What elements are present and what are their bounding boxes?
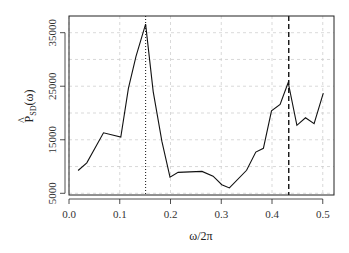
- x-axis: 0.00.10.20.30.40.5: [62, 199, 330, 220]
- x-tick-label: 0.2: [164, 208, 178, 220]
- y-tick-label: 15000: [46, 126, 58, 154]
- y-axis-label: PSD(ω) ^: [15, 90, 38, 123]
- plot-frame: [69, 16, 334, 195]
- y-tick-label: 5000: [46, 182, 58, 205]
- reference-vertical-lines: [146, 16, 289, 195]
- x-tick-label: 0.0: [62, 208, 76, 220]
- x-axis-label: ω/2π: [189, 229, 212, 243]
- y-axis: 5000150002500035000: [46, 18, 65, 204]
- x-tick-label: 0.5: [316, 208, 330, 220]
- y-tick-label: 35000: [46, 18, 58, 46]
- x-tick-label: 0.4: [265, 208, 279, 220]
- grid-lines: [69, 16, 334, 195]
- svg-text:^: ^: [15, 117, 29, 123]
- x-tick-label: 0.1: [113, 208, 127, 220]
- y-tick-label: 25000: [46, 72, 58, 100]
- spectral-density-line: [78, 24, 323, 188]
- spectral-density-chart: 0.00.10.20.30.40.5 5000150002500035000 ω…: [0, 0, 349, 253]
- x-tick-label: 0.3: [214, 208, 228, 220]
